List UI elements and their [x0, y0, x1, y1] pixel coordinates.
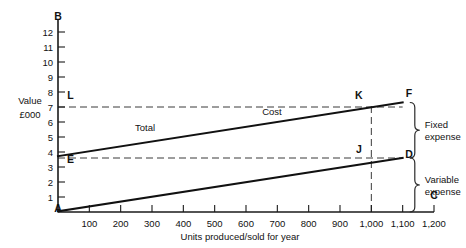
x-tick-label: 200	[113, 218, 129, 229]
x-tick-label: 500	[207, 218, 223, 229]
y-tick-label: 11	[43, 42, 53, 53]
series-line-variable-expense	[58, 158, 403, 211]
x-tick-label: 700	[269, 218, 285, 229]
y-tick-label: 10	[42, 57, 53, 68]
cost-volume-chart: 1234567891011121002003004005006007008009…	[0, 0, 466, 248]
annotation-fixed-expense-line2: expense	[425, 131, 461, 142]
y-tick-label: 8	[48, 87, 53, 98]
point-label-l: L	[67, 89, 74, 101]
point-label-e: E	[67, 153, 74, 165]
y-tick-label: 1	[48, 192, 53, 203]
x-tick-label: 100	[81, 218, 97, 229]
y-tick-label: 12	[42, 27, 53, 38]
annotation-variable-expense-line2: expense	[425, 186, 461, 197]
y-tick-label: 9	[48, 72, 53, 83]
x-tick-label: 900	[332, 218, 348, 229]
brace-variable-expense	[410, 158, 420, 212]
series-label-total: Total	[135, 122, 155, 133]
x-tick-label: 800	[301, 218, 317, 229]
y-axis-title-line2: £000	[19, 109, 40, 120]
x-axis-title: Units produced/sold for year	[181, 231, 300, 242]
chart-canvas: 1234567891011121002003004005006007008009…	[0, 0, 466, 248]
y-tick-label: 6	[48, 117, 53, 128]
series-line-total-cost	[58, 103, 403, 157]
y-tick-label: 2	[48, 177, 53, 188]
annotation-fixed-expense-line1: Fixed	[425, 119, 448, 130]
y-tick-label: 7	[48, 102, 53, 113]
point-label-k: K	[355, 89, 363, 101]
x-tick-label: 1,100	[391, 218, 415, 229]
x-tick-label: 600	[238, 218, 254, 229]
x-tick-label: 1,200	[422, 218, 446, 229]
y-tick-label: 5	[48, 132, 53, 143]
annotation-variable-expense-line1: Variable	[425, 174, 459, 185]
y-tick-label: 4	[48, 147, 53, 158]
x-tick-label: 1,000	[359, 218, 383, 229]
series-label-cost: Cost	[262, 106, 282, 117]
point-label-b: B	[54, 10, 62, 22]
x-tick-label: 300	[144, 218, 160, 229]
x-tick-label: 400	[175, 218, 191, 229]
point-label-f: F	[406, 87, 413, 99]
y-axis-title-line1: Value	[18, 95, 42, 106]
point-label-a: A	[54, 202, 62, 214]
point-label-j: J	[356, 143, 362, 155]
y-tick-label: 3	[48, 162, 53, 173]
